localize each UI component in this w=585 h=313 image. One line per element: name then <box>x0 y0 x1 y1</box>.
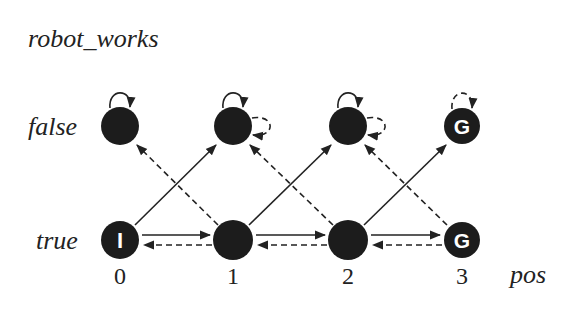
variable-title: robot_works <box>28 24 159 53</box>
node-true-1 <box>213 220 253 260</box>
node-false-2 <box>329 107 367 145</box>
goal-glyph: G <box>454 229 470 252</box>
state-transition-diagram: robot_works false true pos 0 1 2 3 G <box>0 0 585 313</box>
col-label-3: 3 <box>456 263 468 289</box>
goal-glyph: G <box>454 115 470 138</box>
row-label-true: true <box>36 226 78 255</box>
col-label-0: 0 <box>114 263 126 289</box>
edge-t1-f0-dashed <box>137 145 218 225</box>
loop-f1-dashed <box>252 118 270 136</box>
loop-f2-dashed <box>367 118 385 136</box>
loop-f1-solid <box>223 93 243 108</box>
loop-f2-solid <box>338 93 358 108</box>
node-true-0-initial: I <box>101 221 139 259</box>
initial-glyph: I <box>117 228 123 253</box>
loop-f0-solid <box>110 93 130 108</box>
edge-t1-f2-solid <box>249 145 331 225</box>
x-axis-label: pos <box>508 260 546 289</box>
node-false-0 <box>101 107 139 145</box>
edge-t2-f3-solid <box>364 145 446 225</box>
col-label-2: 2 <box>342 263 354 289</box>
edge-t2-f1-dashed <box>250 145 333 225</box>
node-true-3-goal: G <box>444 222 480 258</box>
node-false-1 <box>214 107 252 145</box>
edge-t0-f1-solid <box>135 145 216 225</box>
node-true-2 <box>328 220 368 260</box>
row-label-false: false <box>28 112 77 141</box>
col-label-1: 1 <box>227 263 239 289</box>
node-false-3-goal: G <box>444 108 480 144</box>
loop-f3-dashed <box>452 93 472 109</box>
